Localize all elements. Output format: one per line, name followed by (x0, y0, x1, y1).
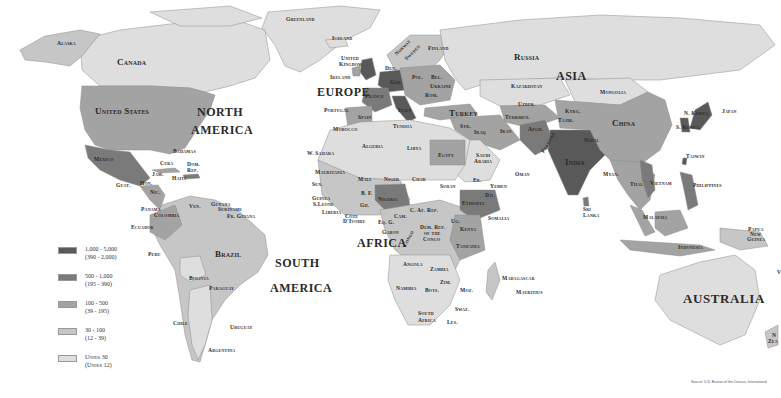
legend-item: 100 - 500 (39 - 195) (58, 299, 168, 326)
country-label: Liberia (322, 210, 341, 216)
country-label: Tunisia (393, 124, 412, 130)
country-label: Spain (358, 115, 372, 121)
country-label: Les. (447, 320, 458, 326)
region-ireland (352, 66, 360, 76)
country-label: Chad (412, 177, 426, 183)
country-label: Bolivia (189, 276, 209, 282)
country-label: Eq. G. (378, 220, 394, 226)
country-label: Japan (722, 109, 737, 115)
region-uk (360, 58, 376, 80)
country-label: China (612, 119, 635, 128)
continent-label-asia: ASIA (556, 70, 587, 82)
country-label: Thai. (630, 182, 644, 188)
country-label: Suriname (218, 207, 242, 213)
country-label: Namibia (396, 286, 417, 292)
legend-sub-range: (Under 12) (85, 361, 112, 369)
country-label: Turkmen. (505, 115, 530, 121)
country-label: Gh. (360, 203, 369, 209)
country-label: Sudan (440, 184, 456, 190)
country-label: Morocco (333, 127, 358, 133)
country-label: Mauritius (516, 290, 543, 296)
legend-item: 30 - 100 (12 - 39) (58, 326, 168, 353)
legend-item: Under 30 (Under 12) (58, 353, 168, 380)
country-label: Chile (173, 321, 188, 327)
country-label: Hon. (140, 181, 152, 187)
country-label: United States (95, 107, 149, 116)
country-label: Myan. (603, 172, 619, 178)
country-label: Ecuador (131, 225, 154, 231)
country-label: Rep. (187, 168, 198, 174)
country-label: Uruguay (230, 325, 253, 331)
region-malaysia (630, 205, 655, 236)
country-label: Iceland (332, 36, 352, 42)
legend-range: Under 30 (85, 353, 112, 361)
country-label: Yemen (490, 184, 507, 190)
legend-range: 500 - 1,000 (85, 272, 113, 280)
continent-label-south-america: SOUTH (275, 257, 320, 269)
country-label: Vietnam (650, 181, 672, 187)
country-label: Guinea (747, 237, 765, 243)
country-label: Kingdom (339, 62, 362, 68)
country-label: Nic. (150, 190, 161, 196)
country-label: B. F. (361, 191, 373, 197)
country-label: Nigeria (378, 197, 398, 203)
country-label: Zea (768, 339, 778, 345)
country-label: Egypt (438, 153, 454, 159)
legend-swatch-lightest (58, 355, 77, 362)
country-label: Greenland (286, 17, 315, 23)
country-label: Mexico (94, 157, 114, 163)
country-label: Ug. (451, 219, 460, 225)
country-label: Rom. (425, 93, 438, 99)
country-label: Italy (398, 108, 412, 114)
country-label: Moz. (460, 288, 473, 294)
country-label: Argentina (208, 348, 235, 354)
country-label: Zim. (440, 280, 451, 286)
country-label: Somalia (488, 216, 509, 222)
country-label: Tanzania (456, 244, 480, 250)
country-label: Alaska (57, 41, 76, 47)
country-label: Brazil (215, 250, 241, 259)
country-label: Sen. (312, 182, 323, 188)
country-label: Bahamas (173, 149, 196, 155)
legend-sub-range: (12 - 39) (85, 334, 106, 342)
continent-label-north-america: NORTH (197, 106, 243, 118)
country-label: Kyrg. (565, 109, 581, 115)
country-label: Afgh. (528, 127, 543, 133)
legend-sub-range: (390 - 2,000) (85, 253, 117, 261)
country-label: Iran (500, 129, 512, 135)
legend-sub-range: (39 - 195) (85, 307, 109, 315)
country-label: Angola (403, 262, 423, 268)
source-credit: Source: U.S. Bureau of the Census, Inter… (691, 380, 767, 384)
country-label: Ethiopia (462, 201, 485, 207)
country-label: Niger (384, 177, 399, 183)
legend-swatch-darkest (58, 247, 77, 254)
region-madagascar (486, 262, 500, 300)
country-label: Zambia (430, 267, 449, 273)
country-label: Ukraine (430, 84, 451, 90)
country-label: N. Korea (684, 111, 708, 117)
country-label: Mongolia (600, 90, 626, 96)
country-label: Russia (514, 53, 539, 62)
country-label: S. Korea (676, 125, 699, 131)
country-label: Algeria (362, 144, 383, 150)
legend-range: 1,000 - 5,000 (85, 245, 117, 253)
country-label: Ireland (330, 75, 350, 81)
country-label: Colombia (154, 213, 179, 219)
country-label: Fr. Guiana (227, 214, 255, 220)
country-label: Bel. (431, 75, 442, 81)
country-label: Finland (428, 46, 449, 52)
country-label: Oman (515, 172, 530, 178)
country-label: Nepal (584, 138, 599, 144)
country-label: Syr. (460, 124, 471, 130)
country-label: Jam. (152, 172, 164, 178)
legend-range: 30 - 100 (85, 326, 106, 334)
country-label: Tajik. (558, 118, 574, 124)
country-label: India (565, 158, 585, 167)
country-label: Arabia (474, 159, 492, 165)
region-philippines (680, 172, 698, 210)
country-label: Indonesia (678, 245, 703, 251)
country-label: Er. (473, 178, 482, 184)
country-label: Dji. (485, 193, 495, 199)
country-label: Kenya (460, 227, 476, 233)
country-label: Portugal (324, 108, 349, 114)
